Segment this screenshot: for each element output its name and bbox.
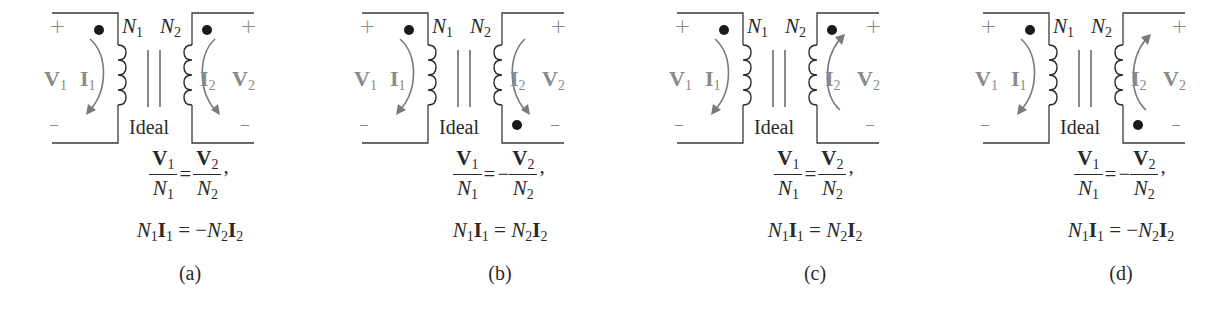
v2-label: V2 xyxy=(232,68,255,93)
current-equation: N1I1 = −N2I2 xyxy=(40,218,340,245)
v1-minus-sign: – xyxy=(980,114,990,134)
voltage-equation: V1 N1 =− V2 N2 , xyxy=(971,146,1223,203)
n1-label: N1 xyxy=(432,16,453,40)
i2-label: I2 xyxy=(510,68,526,93)
i1-label: I1 xyxy=(1011,68,1027,93)
i2-label: I2 xyxy=(825,68,841,93)
primary-polarity-dot-icon xyxy=(404,25,414,35)
v2-minus-sign: – xyxy=(1171,114,1181,134)
v2-plus-sign: + xyxy=(550,16,567,36)
n1-label: N1 xyxy=(1053,16,1074,40)
n2-label: N2 xyxy=(785,16,806,40)
v1-label: V1 xyxy=(44,68,67,93)
i1-label: I1 xyxy=(80,68,96,93)
secondary-polarity-dot-icon xyxy=(512,120,522,130)
current-equation: N1I1 = −N2I2 xyxy=(971,218,1223,245)
secondary-coil-icon xyxy=(184,45,192,105)
secondary-polarity-dot-icon xyxy=(202,25,212,35)
n1-label: N1 xyxy=(122,16,143,40)
primary-coil-icon xyxy=(428,45,436,105)
v1-minus-sign: – xyxy=(359,114,369,134)
primary-polarity-dot-icon xyxy=(719,25,729,35)
primary-polarity-dot-icon xyxy=(94,25,104,35)
secondary-coil-icon xyxy=(494,45,502,105)
v1-label: V1 xyxy=(669,68,692,93)
v1-minus-sign: – xyxy=(674,114,684,134)
voltage-equation: V1 N1 = V2 N2 , xyxy=(665,146,965,203)
secondary-coil-icon xyxy=(1115,45,1123,105)
ideal-label: Ideal xyxy=(439,117,479,137)
i2-label: I2 xyxy=(1131,68,1147,93)
v2-plus-sign: + xyxy=(1171,16,1188,36)
panel-caption: (a) xyxy=(40,262,340,285)
v2-plus-sign: + xyxy=(865,16,882,36)
v1-label: V1 xyxy=(354,68,377,93)
v1-label: V1 xyxy=(975,68,998,93)
n1-label: N1 xyxy=(747,16,768,40)
v1-minus-sign: – xyxy=(49,114,59,134)
ideal-label: Ideal xyxy=(1060,117,1100,137)
v1-plus-sign: + xyxy=(980,16,997,36)
v2-plus-sign: + xyxy=(240,16,257,36)
primary-coil-icon xyxy=(743,45,751,105)
primary-coil-icon xyxy=(1049,45,1057,105)
current-equation: N1I1 = N2I2 xyxy=(665,218,965,245)
transformer-panel-c: + – + – V1 I1 I2 V2 N1 N2 Ideal V1 N1 = … xyxy=(665,0,965,312)
current-equation: N1I1 = N2I2 xyxy=(350,218,650,245)
primary-coil-icon xyxy=(118,45,126,105)
v1-plus-sign: + xyxy=(49,16,66,36)
v2-label: V2 xyxy=(857,68,880,93)
v2-minus-sign: – xyxy=(550,114,560,134)
ideal-label: Ideal xyxy=(754,117,794,137)
transformer-panel-d: + – + – V1 I1 I2 V2 N1 N2 Ideal V1 N1 =−… xyxy=(971,0,1223,312)
n2-label: N2 xyxy=(160,16,181,40)
panel-caption: (b) xyxy=(350,262,650,285)
panel-caption: (d) xyxy=(971,262,1223,285)
v2-label: V2 xyxy=(1163,68,1186,93)
v2-minus-sign: – xyxy=(865,114,875,134)
voltage-equation: V1 N1 =− V2 N2 , xyxy=(350,146,650,203)
n2-label: N2 xyxy=(1091,16,1112,40)
v1-plus-sign: + xyxy=(674,16,691,36)
secondary-polarity-dot-icon xyxy=(827,25,837,35)
panel-caption: (c) xyxy=(665,262,965,285)
secondary-polarity-dot-icon xyxy=(1133,120,1143,130)
transformer-panel-a: + – + – V1 I1 I2 V2 N1 N2 Ideal V1 N1 = … xyxy=(40,0,340,312)
primary-polarity-dot-icon xyxy=(1025,25,1035,35)
voltage-equation: V1 N1 = V2 N2 , xyxy=(40,146,340,203)
i2-label: I2 xyxy=(200,68,216,93)
ideal-label: Ideal xyxy=(129,117,169,137)
secondary-coil-icon xyxy=(809,45,817,105)
v2-minus-sign: – xyxy=(240,114,250,134)
v1-plus-sign: + xyxy=(359,16,376,36)
i1-label: I1 xyxy=(390,68,406,93)
transformer-panel-b: + – + – V1 I1 I2 V2 N1 N2 Ideal V1 N1 =−… xyxy=(350,0,650,312)
v2-label: V2 xyxy=(542,68,565,93)
i1-label: I1 xyxy=(705,68,721,93)
n2-label: N2 xyxy=(470,16,491,40)
